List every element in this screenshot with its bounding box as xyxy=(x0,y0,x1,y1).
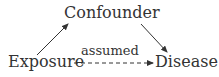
edge-exposure-to-confounder xyxy=(37,24,68,55)
node-exposure: Exposure xyxy=(8,53,84,71)
edge-confounder-to-disease xyxy=(141,24,167,52)
edge-label-assumed: assumed xyxy=(81,44,139,58)
node-disease: Disease xyxy=(155,53,218,71)
node-confounder: Confounder xyxy=(64,4,160,22)
